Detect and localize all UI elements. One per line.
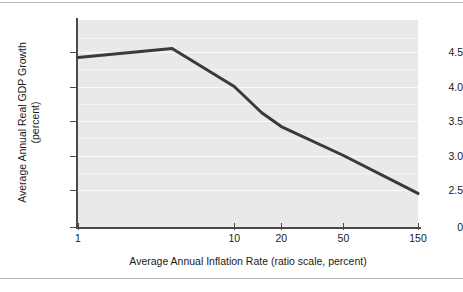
y-tick-mark [70,52,78,53]
gridline-minor [78,104,418,105]
y-tick-mark [70,121,78,122]
y-tick-mark [70,87,78,88]
chart-figure: 4.54.03.53.02.50 1102050150 Average Annu… [0,0,463,292]
x-tick-mark [418,223,419,230]
x-axis-title: Average Annual Inflation Rate (ratio sca… [78,255,418,267]
x-tick-mark [343,223,344,230]
x-tick-label: 1 [58,233,98,244]
y-tick-mark [70,156,78,157]
x-tick-label: 10 [214,233,254,244]
y-tick-label: 4.5 [401,47,463,57]
gridline-minor [78,69,418,70]
y-axis-title-line2: (percent) [28,23,41,223]
y-tick-label: 2.5 [401,185,463,195]
x-tick-label: 50 [323,233,363,244]
x-tick-mark [78,223,79,230]
x-tick-label: 20 [261,233,301,244]
gridline [78,190,418,191]
x-tick-mark [281,223,282,230]
y-tick-label: 0 [401,222,463,232]
gridline [78,121,418,122]
y-axis-title: Average Annual Real GDP Growth (percent) [16,23,41,223]
gridline-minor [78,138,418,139]
gridline [78,156,418,157]
x-tick-mark [234,223,235,230]
y-tick-label: 3.5 [401,116,463,126]
y-tick-mark [70,227,78,228]
gridline [78,87,418,88]
bottom-divider-rule [0,278,463,279]
gridline-minor [78,38,418,39]
y-axis-title-line1: Average Annual Real GDP Growth [16,23,29,223]
y-axis-line [76,18,78,229]
x-axis-line [76,227,421,229]
y-tick-label: 3.0 [401,151,463,161]
y-tick-mark [70,190,78,191]
x-tick-label: 150 [398,233,438,244]
gridline [78,52,418,53]
y-tick-label: 4.0 [401,82,463,92]
top-divider-rule [0,2,463,3]
plot-area [78,20,418,227]
gridline-minor [78,173,418,174]
